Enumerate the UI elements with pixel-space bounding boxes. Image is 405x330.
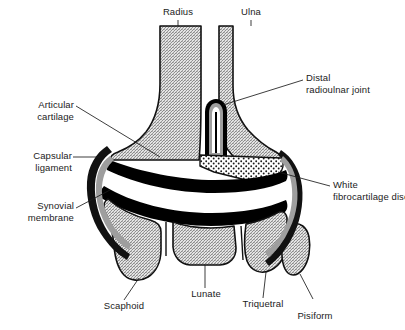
wrist-joint-diagram: Radius Ulna Distal radioulnar joint Arti… bbox=[0, 0, 405, 330]
label-pisiform: Pisiform bbox=[291, 310, 339, 322]
label-white-fibrocartilage-disc: White fibrocartilage disc bbox=[333, 179, 405, 202]
label-distal-radioulnar-joint: Distal radioulnar joint bbox=[306, 72, 402, 95]
label-radius: Radius bbox=[152, 6, 204, 18]
label-synovial-membrane: Synovial membrane bbox=[2, 200, 74, 223]
label-scaphoid: Scaphoid bbox=[96, 300, 152, 312]
lunate-bone bbox=[173, 222, 236, 265]
label-ulna: Ulna bbox=[228, 6, 274, 18]
leader-distal-radioulnar-joint bbox=[223, 80, 303, 105]
druj-central-septum bbox=[215, 112, 217, 153]
radius-bone bbox=[111, 26, 201, 160]
lunotriquetral-cleft bbox=[241, 226, 243, 260]
ulna-bone bbox=[219, 26, 282, 161]
leader-scaphoid bbox=[124, 278, 139, 300]
label-articular-cartilage: Articular cartilage bbox=[2, 99, 74, 122]
label-triquetral: Triquetral bbox=[234, 298, 292, 310]
leader-pisiform bbox=[300, 274, 313, 299]
distal-radioulnar-joint bbox=[205, 99, 227, 158]
label-capsular-ligament: Capsular ligament bbox=[2, 150, 72, 173]
bones-group bbox=[87, 26, 310, 280]
label-lunate: Lunate bbox=[182, 288, 230, 300]
leader-triquetral bbox=[263, 272, 266, 298]
